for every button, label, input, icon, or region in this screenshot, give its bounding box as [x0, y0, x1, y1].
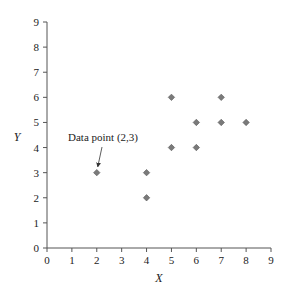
y-axis-title: Y: [14, 130, 22, 144]
data-point-diamond-icon: [193, 144, 199, 150]
x-tick-label: 9: [268, 254, 274, 266]
y-tick-label: 1: [34, 217, 40, 229]
data-points: [94, 94, 250, 201]
x-tick-label: 8: [243, 254, 249, 266]
data-point-diamond-icon: [218, 119, 224, 125]
annotation-label: Data point (2,3): [68, 131, 138, 144]
y-tick-label: 8: [34, 41, 40, 53]
x-tick-label: 6: [194, 254, 200, 266]
data-point-diamond-icon: [143, 195, 149, 201]
x-tick-label: 0: [44, 254, 50, 266]
data-point-diamond-icon: [193, 119, 199, 125]
x-axis-ticks: 0123456789: [44, 248, 274, 266]
y-tick-label: 9: [34, 16, 40, 28]
data-point-diamond-icon: [218, 94, 224, 100]
x-tick-label: 4: [144, 254, 150, 266]
y-tick-label: 3: [34, 167, 40, 179]
x-tick-label: 5: [169, 254, 175, 266]
y-tick-label: 0: [34, 242, 40, 254]
y-tick-label: 4: [34, 142, 40, 154]
y-tick-label: 6: [34, 91, 40, 103]
x-tick-label: 1: [69, 254, 75, 266]
data-point-diamond-icon: [168, 144, 174, 150]
x-axis-title: X: [154, 271, 163, 285]
y-tick-label: 7: [34, 66, 40, 78]
y-tick-label: 5: [34, 116, 40, 128]
data-point-diamond-icon: [243, 119, 249, 125]
x-tick-label: 3: [119, 254, 125, 266]
x-tick-label: 2: [94, 254, 100, 266]
y-tick-label: 2: [34, 192, 40, 204]
y-axis-ticks: 0123456789: [34, 16, 48, 254]
annotations: Data point (2,3): [68, 131, 138, 167]
data-point-diamond-icon: [143, 169, 149, 175]
x-tick-label: 7: [218, 254, 224, 266]
data-point-diamond-icon: [168, 94, 174, 100]
data-point-diamond-icon: [94, 169, 100, 175]
annotation-arrow-icon: [98, 147, 102, 167]
scatter-chart: 0123456789 0123456789 Data point (2,3) X…: [0, 0, 287, 300]
